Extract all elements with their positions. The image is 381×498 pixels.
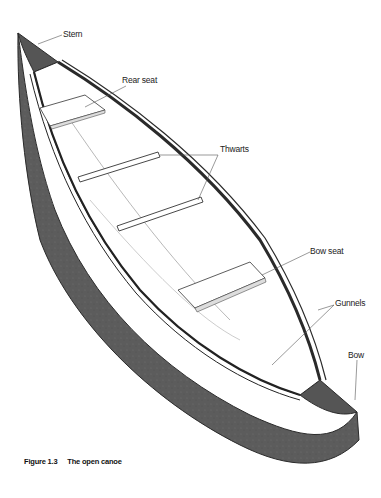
leader-bow	[355, 360, 357, 400]
figure-caption: Figure 1.3 The open canoe	[24, 457, 122, 466]
label-thwarts: Thwarts	[220, 145, 249, 154]
figure-number: Figure 1.3	[24, 457, 57, 466]
label-bow-seat: Bow seat	[310, 247, 343, 256]
label-gunnels: Gunnels	[335, 299, 365, 308]
label-stern: Stern	[63, 30, 82, 39]
leader-stern	[38, 35, 62, 44]
canoe-diagram: Stern Rear seat Thwarts Bow seat Gunnels…	[0, 0, 381, 498]
label-rear-seat: Rear seat	[122, 76, 157, 85]
figure-title: The open canoe	[67, 457, 121, 466]
label-bow: Bow	[348, 351, 364, 360]
